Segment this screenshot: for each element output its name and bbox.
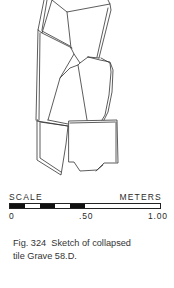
tile-left [36,30,72,120]
figure-caption: Fig. 324 Sketch of collapsed tile Grave … [13,237,171,262]
tile-bottom-left-edge [37,120,68,126]
tile-bottom-left [37,120,68,175]
scale-tick-one: 1.00 [148,211,168,221]
scale-title: SCALE [9,192,43,202]
scale-segment [40,204,55,208]
grave-sketch-drawing [0,0,174,190]
scale-bar [9,203,161,209]
tile-top [38,0,111,58]
scale-tick-half: .50 [79,211,93,221]
scale-segment [10,204,25,208]
tile-diagonal [48,48,88,120]
scale-segment [55,204,70,208]
scale-segment [25,204,40,208]
caption-line-1: Fig. 324 Sketch of collapsed [13,237,171,250]
tile-bottom-right [69,120,118,171]
tile-top-inner [42,0,108,57]
caption-line-2: tile Grave 58.D. [13,250,171,263]
tile-center [88,57,113,120]
scale-tick-zero: 0 [9,211,15,221]
scale-units: METERS [119,192,162,202]
scale-segment [70,204,85,208]
scale-segment [85,204,160,208]
